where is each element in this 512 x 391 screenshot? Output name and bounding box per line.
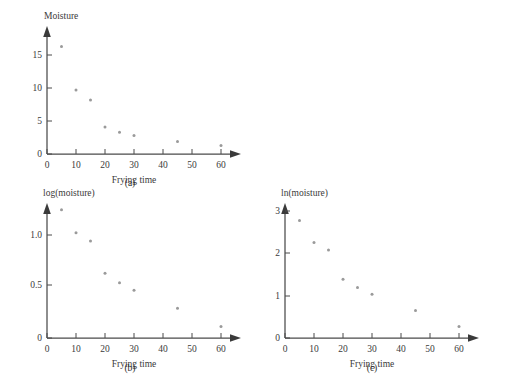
panel-c-x-ticks: 0 10 20 30 40 50 60: [283, 333, 464, 354]
panel-c-xtick-20: 20: [338, 344, 348, 354]
panel-b-xtick-50: 50: [187, 344, 197, 354]
data-point: [60, 45, 63, 48]
panel-b-ytick-05: 0.5: [30, 280, 42, 290]
scatter-plot-figure: 0 5 10 15 0 10 20 30 40 50 60: [0, 0, 512, 391]
data-point: [176, 307, 179, 310]
panel-a-ytick-5: 5: [37, 116, 42, 126]
data-point: [118, 281, 121, 284]
panel-b-xtick-10: 10: [71, 344, 81, 354]
data-point: [176, 140, 179, 143]
data-point: [220, 144, 223, 147]
panel-c-ytick-0: 0: [275, 333, 280, 343]
panel-c-xtick-0: 0: [283, 344, 288, 354]
panel-a-x-ticks: 0 10 20 30 40 50 60: [45, 149, 226, 170]
data-point: [313, 241, 316, 244]
data-point: [458, 325, 461, 328]
data-point: [356, 286, 359, 289]
panel-c-data-series: [298, 219, 461, 328]
data-point: [89, 240, 92, 243]
panel-c-xtick-10: 10: [309, 344, 319, 354]
panel-a: 0 5 10 15 0 10 20 30 40 50 60: [0, 0, 260, 190]
panel-a-y-axis-arrow: [43, 26, 51, 37]
panel-b-ytick-10: 1.0: [30, 230, 42, 240]
data-point: [414, 309, 417, 312]
data-point: [298, 219, 301, 222]
data-point: [133, 289, 136, 292]
data-point: [371, 293, 374, 296]
panel-a-xtick-50: 50: [187, 160, 197, 170]
data-point: [89, 98, 92, 101]
panel-b-ytick-0: 0: [37, 333, 42, 343]
panel-c-ytick-3: 3: [275, 206, 280, 216]
data-point: [104, 125, 107, 128]
panel-b-caption: (b): [124, 363, 135, 373]
panel-c-y-axis-label: ln(moisture): [281, 188, 328, 199]
panel-c: 0 1 2 3 0 10 20 30 40 50 60: [252, 185, 512, 365]
panel-c-xtick-40: 40: [396, 344, 406, 354]
data-point: [327, 248, 330, 251]
panel-b-xtick-40: 40: [158, 344, 168, 354]
panel-a-xtick-20: 20: [100, 160, 110, 170]
data-point: [104, 272, 107, 275]
panel-c-y-ticks: 0 1 2 3: [275, 206, 290, 343]
panel-c-x-axis-arrow: [468, 334, 479, 342]
data-point: [75, 231, 78, 234]
panel-c-xtick-30: 30: [367, 344, 377, 354]
panel-c-ytick-2: 2: [275, 248, 280, 258]
panel-b-x-axis-arrow: [230, 334, 241, 342]
panel-b-data-series: [60, 208, 223, 328]
data-point: [118, 131, 121, 134]
panel-a-y-axis-label: Moisture: [44, 11, 78, 21]
panel-c-ytick-1: 1: [275, 291, 280, 301]
panel-b-xtick-20: 20: [100, 344, 110, 354]
panel-b-xtick-0: 0: [45, 344, 50, 354]
panel-a-xtick-40: 40: [158, 160, 168, 170]
panel-a-xtick-60: 60: [216, 160, 226, 170]
panel-a-ytick-0: 0: [37, 149, 42, 159]
panel-b-y-axis-arrow: [43, 203, 51, 214]
panel-c-xtick-60: 60: [454, 344, 464, 354]
panel-a-xtick-30: 30: [129, 160, 139, 170]
data-point: [220, 325, 223, 328]
panel-a-x-axis-arrow: [230, 150, 241, 158]
data-point: [75, 89, 78, 92]
panel-b-y-ticks: 0 0.5 1.0: [30, 230, 52, 343]
data-point: [60, 208, 63, 211]
panel-a-y-ticks: 0 5 10 15: [33, 50, 53, 159]
panel-a-ytick-15: 15: [33, 50, 43, 60]
panel-c-y-axis-arrow: [281, 203, 289, 214]
panel-b-xtick-60: 60: [216, 344, 226, 354]
panel-a-xtick-10: 10: [71, 160, 81, 170]
data-point: [133, 134, 136, 137]
data-point: [342, 278, 345, 281]
panel-c-caption: (c): [367, 363, 378, 373]
panel-b: 0 0.5 1.0 0 10 20 30 40 50 60: [0, 185, 260, 365]
panel-b-x-ticks: 0 10 20 30 40 50 60: [45, 333, 226, 354]
panel-b-y-axis-label: log(moisture): [43, 188, 95, 199]
panel-a-xtick-0: 0: [45, 160, 50, 170]
panel-a-data-series: [60, 45, 223, 147]
panel-b-xtick-30: 30: [129, 344, 139, 354]
panel-a-ytick-10: 10: [33, 83, 43, 93]
panel-c-xtick-50: 50: [425, 344, 435, 354]
